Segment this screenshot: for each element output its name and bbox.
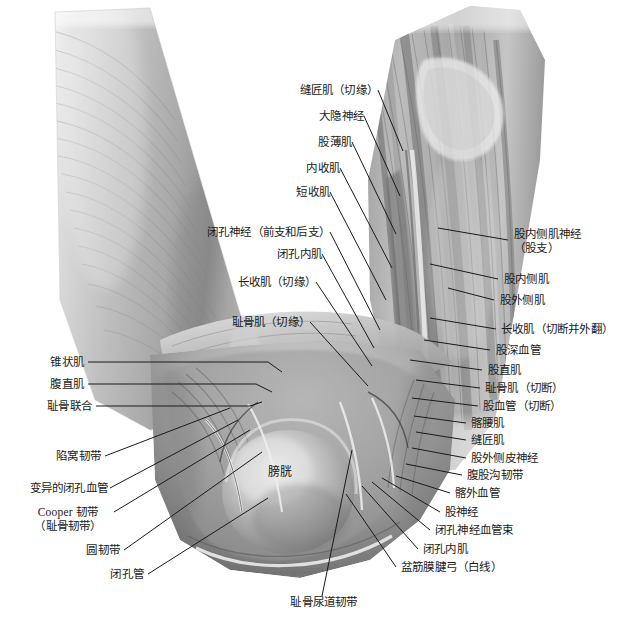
label-vastus-lateralis: 股外侧肌 (500, 294, 545, 308)
label-pubourethral-ligament: 耻骨尿道韧带 (260, 596, 388, 610)
label-sartorius: 缝匠肌 (471, 434, 505, 448)
label-pubic-symphysis: 耻骨联合 (47, 400, 92, 414)
label-tendinous-arch-pelvic-fascia: 盆筋膜腱弓（白线） (401, 561, 502, 575)
label-bladder: 膀胱 (258, 466, 302, 480)
label-round-ligament: 圆韧带 (86, 544, 120, 558)
label-external-iliac-vessels: 髂外血管 (455, 487, 500, 501)
label-obturator-internus-right: 闭孔内肌 (423, 543, 468, 557)
label-gracilis: 股薄肌 (318, 136, 352, 150)
label-great-saphenous-nerve: 大隐神经 (319, 110, 364, 124)
label-obturator-nerve-branches: 闭孔神经（前支和后支） (207, 226, 330, 240)
label-cooper-ligament: Cooper 韧带 （耻骨韧带） (16, 506, 120, 533)
label-pectineus-cut-edge: 耻骨肌（切缘） (232, 316, 310, 330)
cooper-ligament-line2: （耻骨韧带） (16, 520, 120, 534)
cooper-ligament-line1: Cooper 韧带 (38, 506, 99, 518)
nerve-to-vastus-medialis-line1: 股内侧肌神经 (514, 228, 581, 240)
figure-canvas: 缝匠肌（切缘） 大隐神经 股薄肌 内收肌 短收肌 闭孔神经（前支和后支） 闭孔内… (0, 0, 620, 627)
label-nerve-to-vastus-medialis: 股内侧肌神经 （股支） (514, 228, 581, 255)
label-rectus-abdominis: 腹直肌 (50, 378, 84, 392)
label-adductor-brevis: 短收肌 (296, 186, 330, 200)
label-iliopsoas: 髂腰肌 (471, 417, 505, 431)
label-vastus-medialis: 股内侧肌 (504, 273, 549, 287)
label-adductor-magnus: 内收肌 (306, 162, 340, 176)
label-deep-femoral-vessels: 股深血管 (496, 344, 541, 358)
label-inguinal-ligament: 腹股沟韧带 (467, 469, 523, 483)
label-lacunar-ligament: 陷窝韧带 (56, 450, 101, 464)
label-obturator-neurovascular-bundle: 闭孔神经血管束 (435, 524, 513, 538)
label-femoral-vessels-cut: 股血管（切断） (483, 400, 561, 414)
label-adductor-longus-cut-edge: 长收肌（切缘） (238, 276, 316, 290)
label-aberrant-obturator-vessels: 变异的闭孔血管 (30, 482, 108, 496)
nerve-to-vastus-medialis-line2: （股支） (514, 242, 581, 256)
label-pyramidalis: 锥状肌 (50, 356, 84, 370)
label-pectineus-cut: 耻骨肌（切断） (485, 382, 563, 396)
label-adductor-longus-cut-reflected: 长收肌（切断并外翻） (501, 323, 613, 337)
label-femoral-nerve: 股神经 (445, 506, 479, 520)
label-lateral-femoral-cutaneous-nerve: 股外侧皮神经 (471, 452, 538, 466)
label-obturator-internus: 闭孔内肌 (277, 248, 322, 262)
label-sartorius-cut-edge: 缝匠肌（切缘） (300, 84, 378, 98)
label-obturator-canal: 闭孔管 (110, 568, 144, 582)
label-rectus-femoris: 股直肌 (488, 364, 522, 378)
